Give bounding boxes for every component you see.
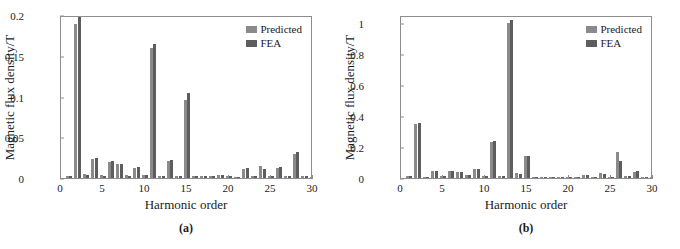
x-axis-tick-label: 30 xyxy=(647,182,658,194)
bar-fea xyxy=(527,156,530,178)
bar-fea xyxy=(485,176,488,178)
y-axis-tick-label: 0.05 xyxy=(5,132,24,144)
bar-group xyxy=(414,17,421,178)
y-axis-tick-mark xyxy=(400,116,404,117)
x-axis-tick-label: 30 xyxy=(307,182,318,194)
x-axis-tick-label: 10 xyxy=(139,182,150,194)
bar-fea xyxy=(237,177,240,178)
bar-group xyxy=(456,17,463,178)
bar-group xyxy=(423,17,430,178)
x-axis-tick-mark xyxy=(312,175,313,179)
bar-fea xyxy=(502,176,505,178)
x-axis-tick-mark xyxy=(442,175,443,179)
legend-a: Predicted FEA xyxy=(243,21,305,51)
x-axis-tick-label: 20 xyxy=(223,182,234,194)
bar-fea xyxy=(111,161,114,178)
bar-fea xyxy=(229,176,232,178)
bar-fea xyxy=(544,177,547,178)
x-axis-label-b: Harmonic order xyxy=(400,197,652,213)
legend-label-predicted: Predicted xyxy=(600,23,642,35)
bar-group xyxy=(431,17,438,178)
y-axis-tick-label: 0.8 xyxy=(350,49,364,61)
y-axis-tick-mark xyxy=(60,97,64,98)
legend-item-fea-a: FEA xyxy=(246,37,302,49)
bar-fea xyxy=(519,174,522,178)
bar-group xyxy=(192,17,199,178)
bar-fea xyxy=(628,176,631,178)
bar-group xyxy=(515,17,522,178)
bar-fea xyxy=(170,160,173,178)
bar-fea xyxy=(162,176,165,178)
y-axis-tick-label: 0.2 xyxy=(10,10,24,22)
bar-fea xyxy=(128,176,131,178)
bar-group xyxy=(150,17,157,178)
bar-group xyxy=(116,17,123,178)
x-axis-tick-mark xyxy=(144,175,145,179)
x-axis-tick-mark xyxy=(102,175,103,179)
legend-swatch-predicted-icon xyxy=(246,26,257,33)
legend-swatch-predicted-icon xyxy=(586,26,597,33)
bar-fea xyxy=(493,141,496,178)
x-axis-tick-label: 25 xyxy=(605,182,616,194)
bar-fea xyxy=(179,176,182,178)
y-axis-tick-mark xyxy=(60,56,64,57)
legend-label-predicted: Predicted xyxy=(260,23,302,35)
bar-group xyxy=(482,17,489,178)
bar-fea xyxy=(594,177,597,178)
bar-fea xyxy=(120,164,123,178)
bar-fea xyxy=(103,176,106,178)
bar-fea xyxy=(510,20,513,178)
bar-group xyxy=(83,17,90,178)
bar-group xyxy=(473,17,480,178)
x-axis-tick-mark xyxy=(652,175,653,179)
bar-fea xyxy=(195,176,198,178)
bar-fea xyxy=(586,175,589,178)
x-axis-tick-mark xyxy=(400,175,401,179)
bar-fea xyxy=(271,176,274,178)
x-axis-tick-label: 5 xyxy=(439,182,445,194)
y-axis-tick-mark xyxy=(400,85,404,86)
bar-group xyxy=(125,17,132,178)
bar-fea xyxy=(451,171,454,178)
bar-fea xyxy=(460,172,463,178)
x-axis-tick-mark xyxy=(610,175,611,179)
bar-predicted xyxy=(310,177,311,178)
bar-group xyxy=(133,17,140,178)
y-axis-tick-label: 0 xyxy=(359,173,365,185)
y-axis-tick-mark xyxy=(60,16,64,17)
bar-group xyxy=(532,17,539,178)
subcaption-a: (a) xyxy=(60,221,312,236)
y-axis-tick-mark xyxy=(400,23,404,24)
x-axis-tick-mark xyxy=(484,175,485,179)
bar-fea xyxy=(153,44,156,178)
bar-fea xyxy=(204,176,207,178)
legend-b: Predicted FEA xyxy=(583,21,645,51)
bar-fea xyxy=(69,176,72,178)
legend-swatch-fea-icon xyxy=(586,40,597,47)
bar-fea xyxy=(221,175,224,178)
bar-fea xyxy=(435,171,438,178)
bar-group xyxy=(549,17,556,178)
bar-fea xyxy=(561,177,564,178)
bar-group xyxy=(66,17,73,178)
x-axis-tick-label: 0 xyxy=(397,182,403,194)
y-axis-tick-label: 0.15 xyxy=(5,51,24,63)
plot-frame-a: Predicted FEA xyxy=(60,16,312,179)
bar-fea xyxy=(468,175,471,178)
bar-predicted xyxy=(650,177,651,178)
bar-group xyxy=(465,17,472,178)
bar-fea xyxy=(288,176,291,178)
bar-fea xyxy=(296,152,299,178)
bar-fea xyxy=(535,177,538,178)
figure-two-panel-bar-charts: Magnetic flux density/T Predicted FEA 00… xyxy=(0,0,680,249)
bar-fea xyxy=(577,177,580,178)
bar-group xyxy=(167,17,174,178)
bar-group xyxy=(226,17,233,178)
bar-fea xyxy=(569,177,572,178)
x-axis-tick-mark xyxy=(60,175,61,179)
y-axis-label-b: Magnetic flux density/T xyxy=(342,16,358,179)
bar-fea xyxy=(187,93,190,178)
bar-fea xyxy=(254,176,257,178)
bar-group xyxy=(91,17,98,178)
bar-fea xyxy=(78,17,81,178)
